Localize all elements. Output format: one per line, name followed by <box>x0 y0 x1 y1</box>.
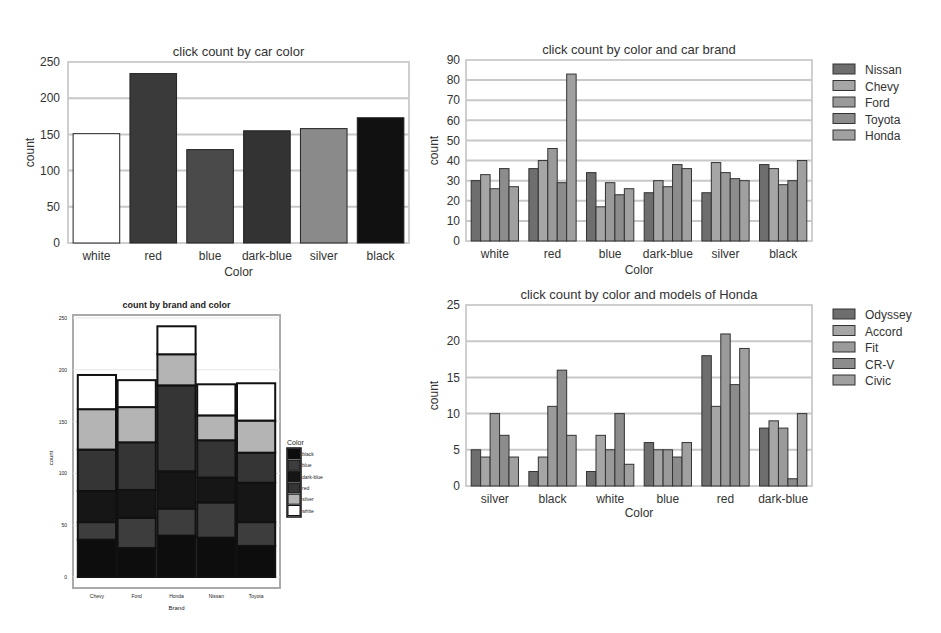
stack-Honda-black <box>157 536 195 577</box>
x-tick-label: silver <box>711 247 739 261</box>
bar-dark-blue-Civic <box>797 414 806 486</box>
y-tick-label: 200 <box>40 91 60 105</box>
x-axis-label: Brand <box>168 605 184 611</box>
y-tick-label: 100 <box>40 164 60 178</box>
bar-white-Chevy <box>481 175 490 241</box>
y-tick-label: 50 <box>447 134 461 148</box>
y-tick-label: 30 <box>447 174 461 188</box>
stack-Toyota-red <box>237 453 275 483</box>
legend-label: Accord <box>865 325 902 339</box>
y-tick-label: 25 <box>447 298 461 312</box>
bar-blue-Chevy <box>596 207 605 241</box>
legend-swatch <box>288 449 300 459</box>
x-tick-label: Honda <box>169 593 184 599</box>
y-tick-label: 0 <box>64 574 67 580</box>
legend-label: Toyota <box>865 113 901 127</box>
legend-label: Fit <box>865 341 879 355</box>
legend-swatch <box>288 506 300 516</box>
bar-red <box>130 74 177 243</box>
bar-blue-Honda <box>624 189 633 241</box>
stack-Honda-silver <box>157 354 195 385</box>
y-tick-label: 80 <box>447 73 461 87</box>
legend-swatch <box>288 460 300 470</box>
y-tick-label: 40 <box>447 154 461 168</box>
bar-red-Civic <box>740 348 749 486</box>
bar-black <box>357 118 404 243</box>
legend-label: Honda <box>865 129 901 143</box>
x-tick-label: red <box>544 247 561 261</box>
bar-dark-blue-Nissan <box>644 193 653 241</box>
x-tick-label: white <box>81 249 110 263</box>
chart-color: click count by car color050100150200250c… <box>0 0 430 290</box>
chart-honda: click count by color and models of Honda… <box>430 280 941 530</box>
chart-title: click count by color and models of Honda <box>520 287 758 302</box>
bar-dark-blue-Chevy <box>654 181 663 241</box>
y-tick-label: 100 <box>59 470 68 476</box>
bar-blue-Fit <box>663 450 672 486</box>
x-tick-label: dark-blue <box>242 249 292 263</box>
stack-Nissan-red <box>197 440 235 477</box>
x-tick-label: Toyota <box>249 593 264 599</box>
bar-silver-Nissan <box>702 193 711 241</box>
stack-Toyota-white <box>237 383 275 420</box>
x-tick-label: dark-blue <box>758 492 808 506</box>
y-axis-label: count <box>48 450 54 465</box>
bar-white-Honda <box>509 187 518 241</box>
bar-white-Civic <box>624 464 633 486</box>
y-tick-label: 50 <box>47 200 61 214</box>
bar-blue-Accord <box>654 450 663 486</box>
x-tick-label: black <box>538 492 567 506</box>
stack-Toyota-black <box>237 546 275 577</box>
stack-Ford-dark-blue <box>118 490 156 518</box>
x-tick-label: Ford <box>132 593 143 599</box>
chart-title: count by brand and color <box>122 300 231 310</box>
stack-Chevy-silver <box>78 409 116 449</box>
legend-swatch <box>833 130 855 140</box>
x-tick-label: white <box>480 247 509 261</box>
legend-label: Odyssey <box>865 308 912 322</box>
chart-stacked-svg: count by brand and color050100150200250c… <box>0 290 430 633</box>
bar-dark-blue-Toyota <box>673 165 682 241</box>
legend-label: CR-V <box>865 358 894 372</box>
bar-silver-Accord <box>481 457 490 486</box>
stack-Ford-red <box>118 442 156 490</box>
bar-black-Odyssey <box>529 472 538 486</box>
bar-red-Chevy <box>538 161 547 241</box>
stack-Nissan-blue <box>197 502 235 537</box>
bar-silver-Civic <box>509 457 518 486</box>
y-axis-label: count <box>430 135 441 165</box>
bar-dark-blue-Fit <box>778 428 787 486</box>
x-tick-label: black <box>367 249 396 263</box>
bar-white <box>73 134 120 243</box>
bar-white-CR-V <box>615 414 624 486</box>
stack-Ford-black <box>118 548 156 577</box>
bar-red-Toyota <box>557 183 566 241</box>
x-axis-label: Color <box>625 263 654 277</box>
stack-Nissan-dark-blue <box>197 478 235 503</box>
x-tick-label: black <box>769 247 798 261</box>
x-tick-label: Nissan <box>209 593 225 599</box>
bar-white-Nissan <box>471 181 480 241</box>
bar-silver-CR-V <box>500 435 509 486</box>
x-tick-label: silver <box>310 249 338 263</box>
legend-label: Civic <box>865 374 891 388</box>
y-tick-label: 150 <box>40 128 60 142</box>
y-axis-label: count <box>430 380 441 410</box>
y-tick-label: 15 <box>447 371 461 385</box>
legend-label: black <box>302 451 314 457</box>
bar-black-Civic <box>567 435 576 486</box>
y-tick-label: 200 <box>59 367 68 373</box>
bar-red-Fit <box>721 334 730 486</box>
legend-swatch <box>288 483 300 493</box>
bar-white-Accord <box>596 435 605 486</box>
stack-Ford-silver <box>118 407 156 442</box>
y-tick-label: 0 <box>453 479 460 493</box>
stack-Honda-blue <box>157 509 195 536</box>
chart-brand: click count by color and car brand010203… <box>430 0 941 290</box>
bar-red-CR-V <box>730 385 739 486</box>
bar-red-Accord <box>711 406 720 486</box>
bar-silver-Ford <box>721 173 730 241</box>
y-tick-label: 250 <box>40 55 60 69</box>
y-tick-label: 20 <box>447 194 461 208</box>
y-tick-label: 150 <box>59 419 68 425</box>
